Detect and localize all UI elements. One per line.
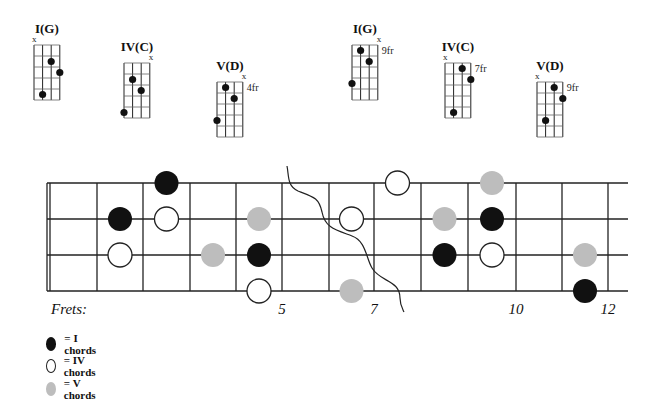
legend-label: = V chords xyxy=(64,377,100,401)
fret-number: 10 xyxy=(509,301,524,318)
chord-title: V(D) xyxy=(536,58,563,74)
finger-dot xyxy=(551,84,558,91)
white-dot-icon xyxy=(46,359,56,373)
chord-title: IV(C) xyxy=(121,39,154,55)
note-dot-v xyxy=(340,279,364,303)
note-dot-iv xyxy=(247,279,271,303)
fret-position-label: 9fr xyxy=(382,45,394,56)
note-dot-iv xyxy=(340,207,364,231)
finger-dot xyxy=(213,117,220,124)
finger-dot xyxy=(366,58,373,65)
note-dot-i xyxy=(480,207,504,231)
note-dot-iv xyxy=(386,171,410,195)
frets-label: Frets: xyxy=(51,301,87,318)
finger-dot xyxy=(129,76,136,83)
fret-position-label: 7fr xyxy=(475,63,487,74)
note-dot-i xyxy=(573,279,597,303)
chord-title: V(D) xyxy=(216,58,243,74)
finger-dot xyxy=(459,65,466,72)
legend-label: = IV chords xyxy=(64,354,100,378)
finger-dot xyxy=(120,109,127,116)
fret-position-label: 9fr xyxy=(567,82,579,93)
chord-progression-diagram: xxx4frx9frx7frx9fr I(G)IV(C)V(D)I(G)IV(C… xyxy=(0,0,658,414)
fret-number: 5 xyxy=(278,301,286,318)
finger-dot xyxy=(357,47,364,54)
chord-title: IV(C) xyxy=(442,39,475,55)
finger-dot xyxy=(39,91,46,98)
finger-dot xyxy=(450,109,457,116)
note-dot-iv xyxy=(480,243,504,267)
note-dot-v xyxy=(573,243,597,267)
note-dot-v xyxy=(433,207,457,231)
fret-number: 12 xyxy=(601,301,616,318)
gray-dot-icon xyxy=(46,382,56,396)
note-dot-iv xyxy=(155,207,179,231)
finger-dot xyxy=(559,95,566,102)
chord-title: I(G) xyxy=(35,21,59,37)
fret-number: 7 xyxy=(370,301,378,318)
chord-title: I(G) xyxy=(353,21,377,37)
note-dot-i xyxy=(247,243,271,267)
finger-dot xyxy=(222,84,229,91)
note-dot-v xyxy=(247,207,271,231)
finger-dot xyxy=(542,117,549,124)
note-dot-i xyxy=(108,207,132,231)
note-dot-i xyxy=(155,171,179,195)
finger-dot xyxy=(231,95,238,102)
note-dot-i xyxy=(433,243,457,267)
finger-dot xyxy=(56,69,63,76)
finger-dot xyxy=(138,87,145,94)
note-dot-v xyxy=(480,171,504,195)
black-dot-icon xyxy=(46,337,56,351)
note-dot-v xyxy=(201,243,225,267)
legend-label: = I chords xyxy=(64,332,99,356)
finger-dot xyxy=(467,76,474,83)
muted-string-x: x xyxy=(377,34,382,44)
legend-item-v-chords: = V chords xyxy=(46,381,100,397)
note-dot-iv xyxy=(108,243,132,267)
finger-dot xyxy=(348,80,355,87)
legend-item-i-chords: = I chords xyxy=(46,336,100,352)
legend-item-iv-chords: = IV chords xyxy=(46,358,100,374)
finger-dot xyxy=(48,58,55,65)
fret-position-label: 4fr xyxy=(247,82,259,93)
